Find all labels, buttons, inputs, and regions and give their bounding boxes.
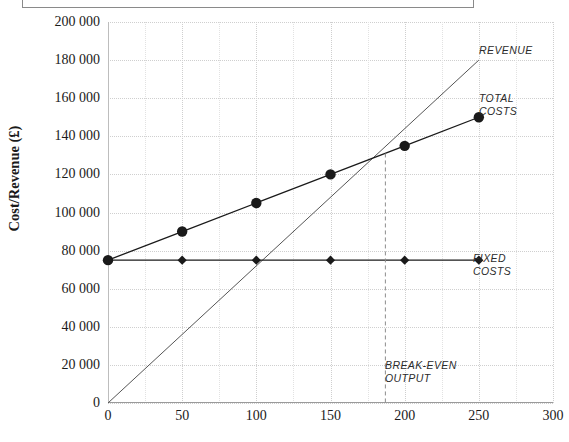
x-axis-tick-label: 200 xyxy=(394,409,415,423)
data-point-marker xyxy=(326,256,335,265)
data-point-marker xyxy=(177,226,187,236)
title-box xyxy=(22,0,474,8)
series-line-total-costs xyxy=(108,117,479,260)
series-label-fixed-costs: FIXED COSTS xyxy=(473,252,511,278)
y-axis-tick-label: 160 000 xyxy=(18,91,100,105)
x-axis-tick-labels: 050100150200250300 xyxy=(108,409,553,429)
x-axis-tick-label: 100 xyxy=(246,409,267,423)
break-even-output-label: BREAK-EVEN OUTPUT xyxy=(385,359,457,385)
y-axis-tick-label: 140 000 xyxy=(18,129,100,143)
data-point-marker xyxy=(399,141,409,151)
data-point-marker xyxy=(251,198,261,208)
y-axis-tick-label: 200 000 xyxy=(18,15,100,29)
gridline-vertical xyxy=(553,22,554,403)
series-layer xyxy=(108,22,553,403)
gridline-horizontal xyxy=(108,403,553,404)
y-axis-tick-label: 100 000 xyxy=(18,206,100,220)
series-line-revenue xyxy=(108,60,479,403)
y-axis-tick-label: 180 000 xyxy=(18,53,100,67)
plot-area: REVENUE TOTAL COSTS FIXED COSTS BREAK-EV… xyxy=(108,22,553,403)
x-axis-tick-label: 250 xyxy=(468,409,489,423)
data-point-marker xyxy=(325,169,335,179)
y-axis-tick-label: 40 000 xyxy=(18,320,100,334)
x-axis-tick-label: 50 xyxy=(175,409,189,423)
series-label-total-costs: TOTAL COSTS xyxy=(479,92,517,118)
x-axis-tick-label: 300 xyxy=(543,409,564,423)
data-point-marker xyxy=(178,256,187,265)
y-axis-tick-label: 0 xyxy=(18,396,100,410)
y-axis-tick-label: 60 000 xyxy=(18,282,100,296)
data-point-marker xyxy=(400,256,409,265)
y-axis-tick-label: 80 000 xyxy=(18,244,100,258)
x-axis-tick-label: 0 xyxy=(105,409,112,423)
x-axis-tick-label: 150 xyxy=(320,409,341,423)
y-axis-tick-label: 120 000 xyxy=(18,167,100,181)
y-axis-tick-label: 20 000 xyxy=(18,358,100,372)
series-label-revenue: REVENUE xyxy=(479,44,533,57)
